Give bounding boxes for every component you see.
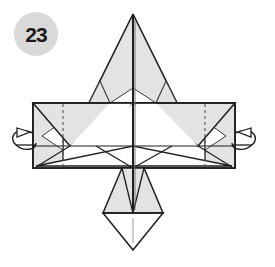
origami-diagram: 23 [0, 0, 275, 267]
lower-point-left-face [103, 168, 133, 213]
fold-arrow-right-head [238, 128, 251, 137]
origami-illustration: 23 [0, 0, 275, 267]
step-badge: 23 [14, 12, 58, 56]
lower-point-right-face [133, 168, 163, 213]
center-spine-group [133, 14, 135, 213]
step-badge-label: 23 [25, 23, 47, 46]
fold-arrow-left-head [17, 128, 30, 137]
